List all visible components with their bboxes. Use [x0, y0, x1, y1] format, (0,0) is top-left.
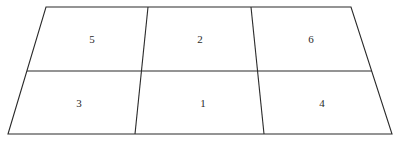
perspective-grid-diagram: 5 2 6 3 1 4 — [0, 0, 398, 141]
cell-label-r1-c2: 4 — [319, 97, 325, 109]
cell-label-r0-c2: 6 — [308, 33, 314, 45]
cell-label-r0-c1: 2 — [197, 33, 203, 45]
cell-label-r0-c0: 5 — [89, 33, 95, 45]
cell-label-r1-c0: 3 — [76, 97, 82, 109]
cell-label-r1-c1: 1 — [200, 97, 206, 109]
